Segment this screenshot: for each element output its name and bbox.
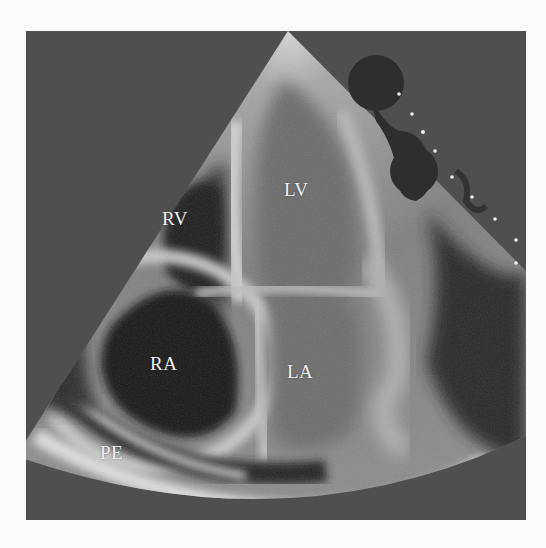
label-pe: PE [100,443,123,462]
label-la: LA [287,362,313,381]
label-lv: LV [284,180,309,199]
echo-image-frame: RV LV RA LA PE [26,31,526,520]
label-ra: RA [150,354,177,373]
label-rv: RV [162,209,188,228]
